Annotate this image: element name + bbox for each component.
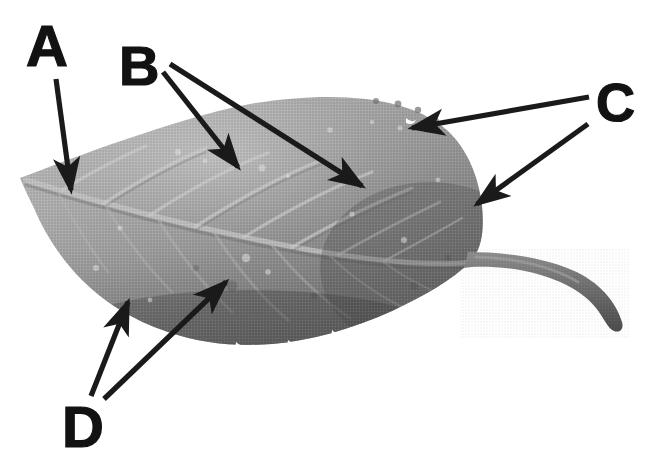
leaf-petiole	[460, 248, 630, 338]
petiole-halftone	[460, 248, 630, 338]
label-c: C	[596, 75, 635, 129]
arrow-c-2	[477, 124, 588, 204]
label-b: B	[119, 38, 159, 94]
leaf-figure: A B C D	[0, 0, 655, 471]
label-d: D	[62, 398, 103, 456]
arrow-c-1	[412, 97, 589, 128]
label-a: A	[26, 17, 67, 75]
